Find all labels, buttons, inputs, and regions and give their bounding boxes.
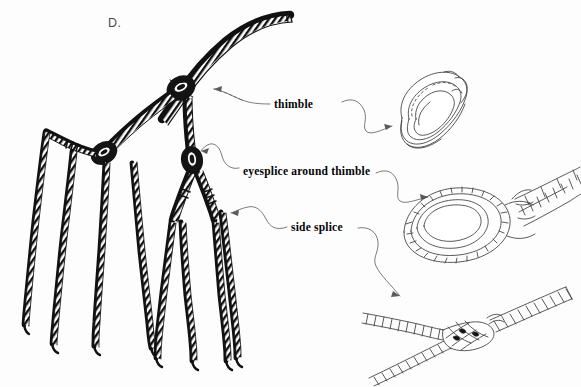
side-splice-arm-bottom — [369, 338, 455, 386]
branch-center-lower — [172, 173, 195, 222]
eyesplice-thimble-node — [179, 145, 205, 176]
leader-sidesplice-right — [358, 228, 400, 296]
leader-lines — [201, 86, 428, 297]
main-rope-arc — [162, 13, 292, 125]
leader-eyesplice-left — [201, 144, 239, 169]
thimble-detail-drawing — [401, 71, 468, 148]
rope-strand-6 — [181, 222, 198, 370]
label-thimble: thimble — [274, 98, 313, 110]
leader-thimble-right — [342, 100, 392, 133]
eyesplice-standing-rope — [515, 167, 581, 226]
rope-strand-3 — [94, 162, 110, 355]
label-eyesplice-around-thimble: eyesplice around thimble — [243, 165, 370, 177]
side-splice-node — [197, 171, 220, 220]
rope-strand-2 — [52, 151, 77, 353]
label-side-splice: side splice — [291, 221, 343, 233]
rope-splicing-illustration — [0, 0, 581, 387]
leader-thimble-left — [214, 89, 270, 104]
side-splice-arm-right — [490, 287, 572, 332]
rope-strand-5 — [156, 222, 176, 367]
rope-strand-1 — [24, 132, 50, 334]
side-splice-junction — [442, 314, 504, 350]
rope-strand-4 — [132, 162, 157, 357]
side-splice-detail-drawing — [362, 287, 572, 386]
branching-rope-assembly — [24, 13, 292, 370]
figure-root: D. — [0, 0, 581, 387]
side-splice-arm-left — [362, 313, 444, 340]
leader-eyesplice-right — [376, 171, 428, 203]
leader-sidesplice-left — [231, 207, 287, 229]
eyesplice-detail-drawing — [404, 167, 581, 263]
